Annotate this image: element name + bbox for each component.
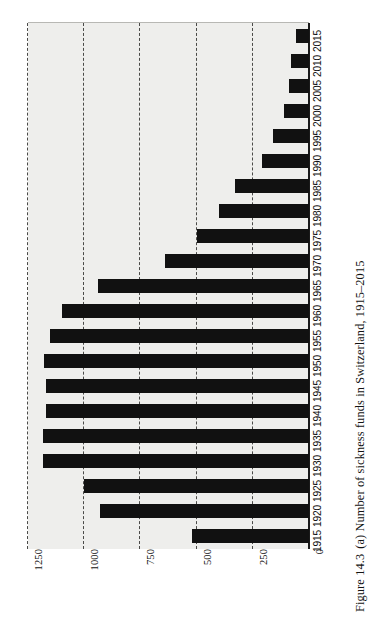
bar-row <box>28 304 309 318</box>
bar-row <box>28 379 309 393</box>
value-tick-500: 500 <box>202 549 215 595</box>
bar-2010 <box>291 54 309 68</box>
bar-2005 <box>289 79 309 93</box>
bar-row <box>28 479 309 493</box>
value-tick-1000: 1000 <box>89 549 102 595</box>
bar-row <box>28 29 309 43</box>
bar-1950 <box>44 354 309 368</box>
bar-1985 <box>235 179 309 193</box>
bar-row <box>28 429 309 443</box>
bar-1960 <box>62 304 309 318</box>
bar-1980 <box>219 204 309 218</box>
bar-row <box>28 204 309 218</box>
bar-row <box>28 254 309 268</box>
bar-row <box>28 79 309 93</box>
bar-1995 <box>273 129 309 143</box>
bar-row <box>28 229 309 243</box>
bar-1925 <box>84 479 309 493</box>
bar-row <box>28 279 309 293</box>
value-tick-0: 0 <box>314 549 327 595</box>
bar-2015 <box>296 29 309 43</box>
bar-row <box>28 504 309 518</box>
bar-row <box>28 154 309 168</box>
bar-1975 <box>197 229 309 243</box>
bar-row <box>28 529 309 543</box>
bar-1955 <box>50 329 309 343</box>
bar-row <box>28 329 309 343</box>
bar-1935 <box>43 429 309 443</box>
bar-row <box>28 179 309 193</box>
value-tick-250: 250 <box>258 549 271 595</box>
bar-1965 <box>98 279 309 293</box>
figure-container: 125010007505002500 191519201925193019351… <box>0 0 381 631</box>
bar-row <box>28 404 309 418</box>
year-tick-2015: 2015 <box>312 18 324 52</box>
bar-row <box>28 454 309 468</box>
bar-row <box>28 54 309 68</box>
bar-1970 <box>165 254 309 268</box>
bar-1990 <box>262 154 309 168</box>
figure-number: Figure 14.3 <box>353 554 367 612</box>
bar-row <box>28 354 309 368</box>
value-tick-1250: 1250 <box>33 549 46 595</box>
bar-1920 <box>100 504 309 518</box>
bar-row <box>28 129 309 143</box>
bar-1915 <box>192 529 309 543</box>
bar-row <box>28 104 309 118</box>
plot-panel <box>28 22 309 549</box>
bar-1930 <box>43 454 309 468</box>
figure-caption-text: (a) Number of sickness funds in Switzerl… <box>353 260 367 548</box>
value-tick-750: 750 <box>145 549 158 595</box>
bar-1945 <box>46 379 309 393</box>
bar-2000 <box>284 104 309 118</box>
bar-1940 <box>46 404 309 418</box>
figure-caption: Figure 14.3(a) Number of sickness funds … <box>353 282 368 612</box>
